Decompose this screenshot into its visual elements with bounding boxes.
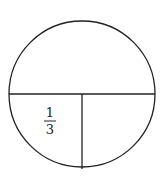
fraction-numerator: 1 [46, 105, 54, 120]
circle-diagram: 1 3 [0, 0, 164, 180]
fraction-denominator: 3 [46, 122, 54, 137]
